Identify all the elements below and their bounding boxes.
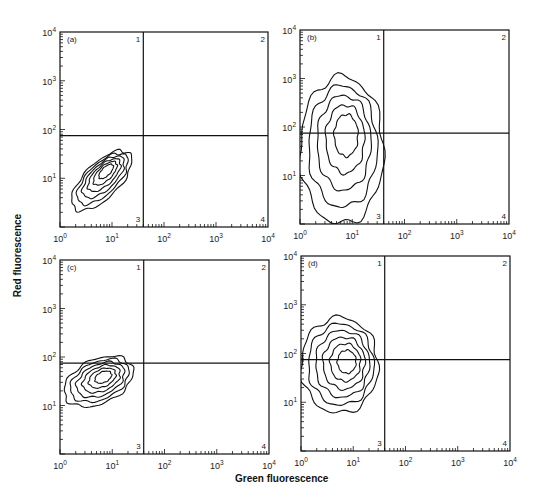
svg-text:1: 1: [136, 263, 141, 272]
svg-text:2: 2: [502, 33, 507, 42]
svg-text:104: 104: [502, 229, 516, 241]
svg-text:102: 102: [42, 124, 56, 136]
svg-text:104: 104: [262, 459, 276, 471]
svg-text:3: 3: [136, 442, 141, 451]
svg-text:102: 102: [399, 456, 413, 468]
svg-text:1: 1: [377, 259, 382, 268]
svg-text:100: 100: [293, 229, 307, 241]
svg-text:4: 4: [262, 442, 267, 451]
svg-text:(d): (d): [308, 259, 318, 268]
svg-text:103: 103: [451, 456, 465, 468]
svg-text:102: 102: [157, 232, 171, 244]
svg-text:102: 102: [158, 459, 172, 471]
svg-text:101: 101: [42, 172, 56, 184]
svg-text:103: 103: [283, 299, 297, 311]
svg-text:1: 1: [136, 35, 141, 44]
svg-text:(a): (a): [67, 35, 77, 44]
svg-text:1: 1: [376, 33, 381, 42]
svg-text:(b): (b): [307, 33, 317, 42]
y-axis-label: Red fluorescence: [12, 201, 23, 311]
svg-text:102: 102: [42, 351, 56, 363]
svg-text:102: 102: [398, 229, 412, 241]
svg-text:103: 103: [282, 73, 296, 85]
figure-canvas: 100101102103104101102103104(a)1234100101…: [0, 0, 541, 503]
svg-text:100: 100: [53, 459, 67, 471]
contour-panel-a: 100101102103104101102103104(a)1234: [42, 26, 275, 244]
svg-text:104: 104: [282, 24, 296, 36]
svg-text:4: 4: [261, 215, 266, 224]
contour-panel-c: 100101102103104101102103104(c)1234: [42, 254, 276, 471]
contour-panel-b: 100101102103104101102103104(b)1234: [282, 24, 516, 241]
svg-text:104: 104: [503, 456, 517, 468]
svg-text:104: 104: [283, 250, 297, 262]
svg-text:100: 100: [53, 232, 67, 244]
svg-text:4: 4: [502, 212, 507, 221]
svg-text:4: 4: [503, 439, 508, 448]
svg-text:101: 101: [42, 400, 56, 412]
svg-text:100: 100: [294, 456, 308, 468]
svg-text:101: 101: [105, 459, 119, 471]
svg-text:104: 104: [261, 232, 275, 244]
x-axis-label: Green fluorescence: [235, 473, 328, 484]
svg-text:102: 102: [283, 348, 297, 360]
svg-text:2: 2: [261, 35, 266, 44]
svg-text:103: 103: [210, 459, 224, 471]
svg-text:2: 2: [262, 263, 267, 272]
svg-text:101: 101: [105, 232, 119, 244]
svg-text:103: 103: [209, 232, 223, 244]
svg-text:101: 101: [283, 396, 297, 408]
svg-text:3: 3: [376, 212, 381, 221]
svg-text:101: 101: [346, 456, 360, 468]
contour-panel-d: 100101102103104101102103104(d)1234: [283, 250, 517, 468]
svg-text:103: 103: [450, 229, 464, 241]
svg-text:102: 102: [282, 121, 296, 133]
svg-text:3: 3: [377, 439, 382, 448]
svg-text:(c): (c): [67, 263, 77, 272]
svg-text:104: 104: [42, 254, 56, 266]
svg-text:101: 101: [345, 229, 359, 241]
svg-text:103: 103: [42, 303, 56, 315]
svg-text:103: 103: [42, 75, 56, 87]
svg-text:101: 101: [282, 170, 296, 182]
svg-text:104: 104: [42, 26, 56, 38]
svg-text:2: 2: [503, 259, 508, 268]
svg-text:3: 3: [136, 215, 141, 224]
